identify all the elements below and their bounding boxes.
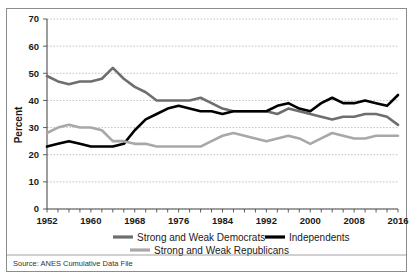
x-tick-label: 1968 bbox=[124, 215, 145, 226]
x-tick-label: 1976 bbox=[168, 215, 189, 226]
legend-label-2[interactable]: Strong and Weak Republicans bbox=[154, 245, 289, 256]
y-tick-label: 10 bbox=[28, 176, 39, 187]
y-tick-label: 70 bbox=[28, 13, 39, 24]
y-tick-label: 30 bbox=[28, 122, 39, 133]
x-tick-label: 2000 bbox=[300, 215, 321, 226]
y-axis-tick-labels: 010203040506070 bbox=[28, 13, 39, 214]
chart-container: Percent 010203040506070 1952196019681976… bbox=[0, 0, 419, 280]
x-tick-label: 1960 bbox=[80, 215, 101, 226]
y-axis-label: Percent bbox=[13, 106, 24, 143]
x-tick-label: 1952 bbox=[36, 215, 57, 226]
series-line-independents bbox=[47, 95, 398, 147]
x-tick-label: 1992 bbox=[256, 215, 277, 226]
y-tick-label: 40 bbox=[28, 95, 39, 106]
source-note: Source: ANES Cumulative Data File bbox=[13, 259, 133, 268]
y-tick-label: 0 bbox=[34, 203, 39, 214]
x-tick-label: 2008 bbox=[344, 215, 365, 226]
y-tick-label: 50 bbox=[28, 68, 39, 79]
y-tick-label: 60 bbox=[28, 41, 39, 52]
y-axis-ticks bbox=[43, 19, 47, 209]
legend-label-1[interactable]: Independents bbox=[289, 232, 350, 243]
series-line-strong-and-weak-republicans bbox=[47, 125, 398, 147]
y-tick-label: 20 bbox=[28, 149, 39, 160]
data-series-group bbox=[47, 68, 398, 147]
chart-legend: Strong and Weak DemocratsIndependentsStr… bbox=[113, 232, 350, 256]
x-tick-label: 1984 bbox=[212, 215, 234, 226]
x-axis-tick-labels: 195219601968197619841992200020082016 bbox=[36, 215, 408, 226]
series-line-strong-and-weak-democrats bbox=[47, 68, 398, 125]
legend-label-0[interactable]: Strong and Weak Democrats bbox=[137, 232, 265, 243]
line-chart-svg: Percent 010203040506070 1952196019681976… bbox=[0, 0, 419, 280]
x-tick-label: 2016 bbox=[387, 215, 408, 226]
